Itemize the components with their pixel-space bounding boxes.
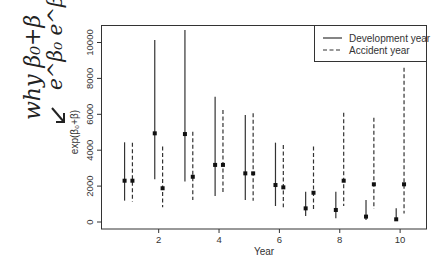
y-tick-label: 0 xyxy=(84,219,95,224)
point-estimate xyxy=(153,131,157,135)
errorbar-development-year-1 xyxy=(123,142,127,200)
point-estimate xyxy=(281,185,285,189)
y-tick-label: 2000 xyxy=(84,176,95,197)
point-estimate xyxy=(123,179,127,183)
x-tick-label: 8 xyxy=(337,234,342,245)
point-estimate xyxy=(213,163,217,167)
x-tick-label: 6 xyxy=(277,234,282,245)
errorbar-development-year-6 xyxy=(273,143,277,206)
errorbar-accident-year-10 xyxy=(402,68,406,214)
errorbar-development-year-7 xyxy=(304,192,308,216)
point-estimate xyxy=(130,179,134,183)
y-axis-title: exp(β₀+β) xyxy=(69,110,80,154)
errorbar-accident-year-5 xyxy=(251,113,255,200)
errorbar-development-year-2 xyxy=(153,40,157,179)
errorbar-accident-year-8 xyxy=(342,113,346,206)
x-tick-label: 4 xyxy=(216,234,221,245)
y-tick-label: 10000 xyxy=(84,29,95,55)
point-estimate xyxy=(342,179,346,183)
y-axis: 0200040006000800010000 xyxy=(84,29,102,224)
legend-label-development-year: Development year xyxy=(349,33,431,44)
errorbar-development-year-3 xyxy=(183,30,187,182)
errorbar-accident-year-7 xyxy=(312,147,316,211)
errorbar-development-year-8 xyxy=(334,192,338,219)
point-estimate xyxy=(161,186,165,190)
point-estimate xyxy=(243,171,247,175)
y-tick-label: 6000 xyxy=(84,104,95,125)
errorbar-accident-year-2 xyxy=(161,147,165,208)
error-bar-chart: why β₀+β e^β₀ e^β 0200040006000800010000… xyxy=(0,0,447,272)
errorbar-accident-year-1 xyxy=(130,143,134,202)
x-axis: 246810 xyxy=(156,229,405,245)
point-estimate xyxy=(251,171,255,175)
point-estimate xyxy=(372,182,376,186)
point-estimate xyxy=(304,206,308,210)
legend-box xyxy=(315,26,427,62)
point-estimate xyxy=(183,132,187,136)
arrow-icon xyxy=(52,108,64,122)
point-estimate xyxy=(273,183,277,187)
legend: Development year Accident year xyxy=(315,26,431,62)
y-tick-label: 4000 xyxy=(84,140,95,161)
point-estimate xyxy=(312,191,316,195)
errorbar-development-year-5 xyxy=(243,115,247,200)
errorbar-accident-year-3 xyxy=(191,132,195,200)
legend-label-accident-year: Accident year xyxy=(349,45,410,56)
handwritten-note-line2: e^β₀ e^β xyxy=(43,0,67,90)
handwritten-note-line1: why β₀+β xyxy=(20,15,45,120)
errorbar-development-year-10 xyxy=(394,208,398,221)
point-estimate xyxy=(402,182,406,186)
y-tick-label: 8000 xyxy=(84,68,95,89)
x-tick-label: 10 xyxy=(395,234,406,245)
point-estimate xyxy=(394,217,398,221)
point-estimate xyxy=(191,175,195,179)
errorbar-accident-year-6 xyxy=(281,145,285,207)
x-axis-title: Year xyxy=(254,246,275,257)
point-estimate xyxy=(334,208,338,212)
x-tick-label: 2 xyxy=(156,234,161,245)
errorbar-accident-year-9 xyxy=(372,118,376,209)
point-estimate xyxy=(221,163,225,167)
handwritten-annotation: why β₀+β e^β₀ e^β xyxy=(20,0,67,120)
errorbar-development-year-9 xyxy=(364,200,368,220)
errorbar-accident-year-4 xyxy=(221,110,225,193)
point-estimate xyxy=(364,215,368,219)
errorbar-development-year-4 xyxy=(213,97,217,196)
